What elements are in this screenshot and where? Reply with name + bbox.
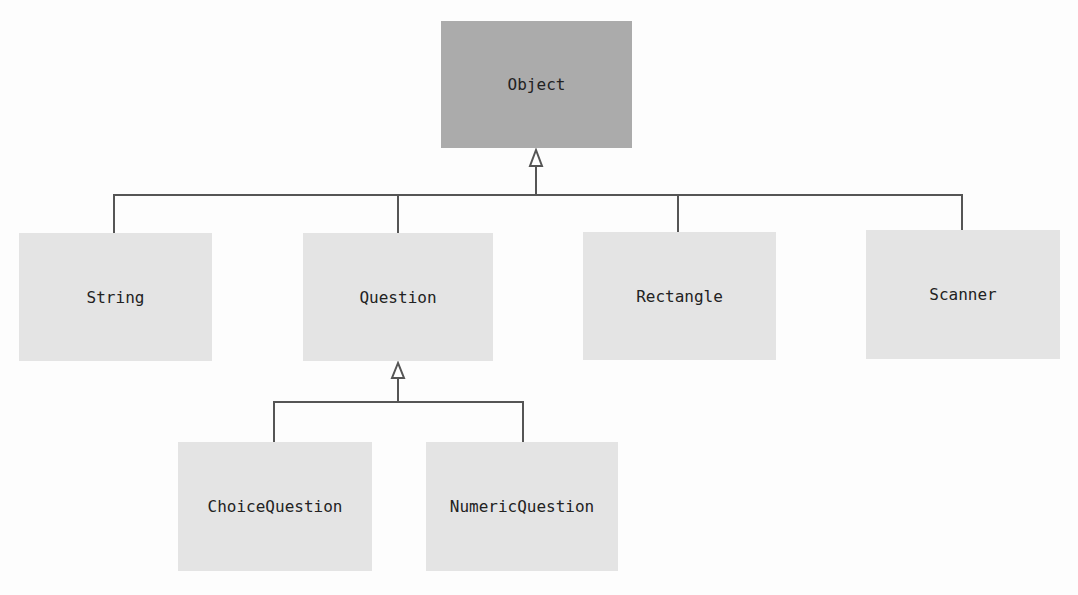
inheritance-arrow-object [530,150,542,166]
class-label: Question [359,288,436,307]
class-object: Object [441,21,632,148]
class-rectangle: Rectangle [583,232,776,360]
class-string: String [19,233,212,361]
class-label: Scanner [929,285,996,304]
class-label: Object [508,75,566,94]
inheritance-arrow-question [392,363,404,378]
class-label: NumericQuestion [450,497,595,516]
class-question: Question [303,233,493,361]
class-choicequestion: ChoiceQuestion [178,442,372,571]
class-scanner: Scanner [866,230,1060,359]
class-label: ChoiceQuestion [208,497,343,516]
class-numericquestion: NumericQuestion [426,442,618,571]
class-label: String [87,288,145,307]
class-label: Rectangle [636,287,723,306]
